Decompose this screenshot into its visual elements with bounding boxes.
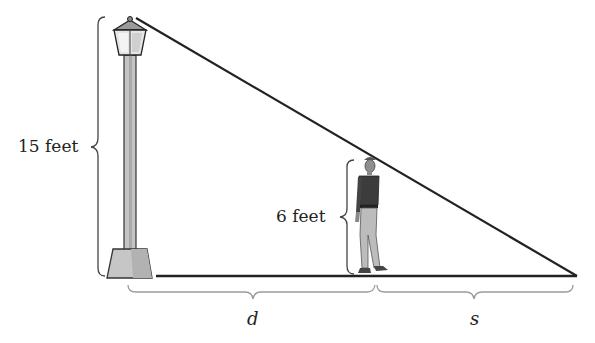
brace-distance-d <box>128 285 375 299</box>
brace-lamp-height <box>91 17 105 276</box>
similar-triangles-diagram <box>0 0 595 343</box>
person-height-label: 6 feet <box>276 206 325 226</box>
shadow-label-s: s <box>470 308 479 329</box>
lamppost <box>107 17 152 279</box>
distance-label-d: d <box>247 308 259 329</box>
light-ray-line <box>136 18 577 276</box>
brace-person-height <box>340 160 354 274</box>
brace-shadow-s <box>377 285 573 299</box>
lamp-height-label: 15 feet <box>18 136 78 156</box>
person-figure <box>355 157 388 273</box>
